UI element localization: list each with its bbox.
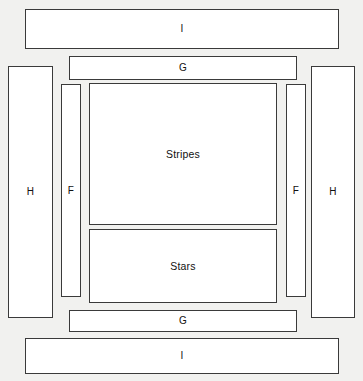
piece-label-border-i-top: I <box>181 24 184 34</box>
piece-label-panel-stars: Stars <box>170 261 196 272</box>
piece-border-i-bottom: I <box>25 338 339 374</box>
piece-label-border-f-left: F <box>68 186 74 196</box>
piece-border-h-right: H <box>311 66 355 318</box>
piece-label-border-g-top: G <box>179 63 187 73</box>
piece-border-f-right: F <box>286 84 306 297</box>
piece-label-border-h-right: H <box>329 187 336 197</box>
piece-label-border-g-bottom: G <box>179 316 187 326</box>
piece-border-f-left: F <box>61 84 81 297</box>
piece-panel-stripes: Stripes <box>89 83 277 225</box>
piece-panel-stars: Stars <box>89 229 277 303</box>
piece-border-i-top: I <box>25 9 339 49</box>
piece-border-h-left: H <box>8 66 53 318</box>
piece-label-border-f-right: F <box>293 186 299 196</box>
piece-border-g-top: G <box>69 56 297 80</box>
block-assembly-diagram: IGHFStripesStarsFHGI <box>0 0 363 381</box>
piece-border-g-bottom: G <box>69 310 297 332</box>
piece-label-border-i-bottom: I <box>181 351 184 361</box>
piece-label-panel-stripes: Stripes <box>166 149 200 160</box>
piece-label-border-h-left: H <box>27 187 34 197</box>
